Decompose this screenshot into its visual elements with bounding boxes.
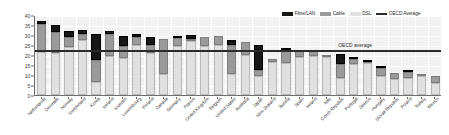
bar-segment-dsl[interactable] <box>132 45 141 95</box>
bar-segment-fibre-lan[interactable] <box>146 37 155 45</box>
bar-group[interactable] <box>173 15 182 95</box>
bar-group[interactable] <box>336 15 345 95</box>
bar-segment-fibre-lan[interactable] <box>363 60 372 62</box>
bar-segment-cable[interactable] <box>64 37 73 47</box>
bar-segment-cable[interactable] <box>322 55 331 57</box>
bar-segment-cable[interactable] <box>200 37 209 47</box>
bar-segment-dsl[interactable] <box>254 76 263 95</box>
bar-segment-fibre-lan[interactable] <box>376 66 385 68</box>
bar-segment-dsl[interactable] <box>91 82 100 95</box>
legend-item[interactable]: DSL <box>350 12 372 17</box>
bar-segment-dsl[interactable] <box>281 63 290 95</box>
bar-segment-fibre-lan[interactable] <box>403 70 412 72</box>
bar-segment-cable[interactable] <box>105 34 114 56</box>
bar-segment-fibre-lan[interactable] <box>349 57 358 59</box>
bar-group[interactable] <box>309 15 318 95</box>
legend-item[interactable]: Fibre/LAN <box>282 12 315 17</box>
bar-segment-dsl[interactable] <box>159 74 168 95</box>
bar-segment-fibre-lan[interactable] <box>105 31 114 34</box>
bar-segment-fibre-lan[interactable] <box>173 36 182 38</box>
bar-group[interactable] <box>241 15 250 95</box>
bar-segment-dsl[interactable] <box>214 45 223 95</box>
bar-segment-dsl[interactable] <box>390 79 399 95</box>
bar-segment-fibre-lan[interactable] <box>37 21 46 24</box>
bar-group[interactable] <box>146 15 155 95</box>
bar-segment-cable[interactable] <box>214 36 223 45</box>
bar-segment-dsl[interactable] <box>186 41 195 95</box>
bar-segment-cable[interactable] <box>403 72 412 78</box>
bar-group[interactable] <box>295 15 304 95</box>
bar-segment-dsl[interactable] <box>376 76 385 95</box>
bar-segment-dsl[interactable] <box>363 63 372 95</box>
bar-segment-dsl[interactable] <box>403 78 412 95</box>
bar-segment-dsl[interactable] <box>105 56 114 95</box>
bar-group[interactable] <box>37 15 46 95</box>
bar-group[interactable] <box>186 15 195 95</box>
bar-segment-cable[interactable] <box>119 46 128 57</box>
bar-segment-fibre-lan[interactable] <box>336 54 345 64</box>
bar-group[interactable] <box>254 15 263 95</box>
bar-segment-cable[interactable] <box>281 50 290 63</box>
bar-segment-dsl[interactable] <box>349 64 358 95</box>
bar-segment-cable[interactable] <box>78 34 87 40</box>
bar-segment-cable[interactable] <box>376 68 385 75</box>
bar-group[interactable] <box>390 15 399 95</box>
bar-segment-cable[interactable] <box>390 73 399 79</box>
bar-group[interactable] <box>51 15 60 95</box>
bar-segment-fibre-lan[interactable] <box>132 34 141 37</box>
bar-segment-dsl[interactable] <box>431 83 440 95</box>
bar-segment-dsl[interactable] <box>64 47 73 95</box>
bar-group[interactable] <box>214 15 223 95</box>
bar-group[interactable] <box>64 15 73 95</box>
bar-group[interactable] <box>132 15 141 95</box>
bar-segment-cable[interactable] <box>241 42 250 55</box>
bar-segment-dsl[interactable] <box>322 57 331 95</box>
bar-segment-fibre-lan[interactable] <box>64 31 73 37</box>
bar-group[interactable] <box>376 15 385 95</box>
bar-segment-dsl[interactable] <box>417 76 426 95</box>
legend-item[interactable]: OECD Average <box>376 12 420 17</box>
bar-group[interactable] <box>417 15 426 95</box>
bar-group[interactable] <box>200 15 209 95</box>
bar-segment-dsl[interactable] <box>268 62 277 95</box>
bar-segment-dsl[interactable] <box>227 74 236 95</box>
bar-group[interactable] <box>281 15 290 95</box>
bar-group[interactable] <box>91 15 100 95</box>
legend-item[interactable]: Cable <box>320 12 345 17</box>
bar-segment-dsl[interactable] <box>146 53 155 95</box>
bar-segment-cable[interactable] <box>254 70 263 76</box>
bar-segment-fibre-lan[interactable] <box>119 36 128 46</box>
bar-group[interactable] <box>322 15 331 95</box>
bar-segment-cable[interactable] <box>417 74 426 76</box>
bar-segment-cable[interactable] <box>431 76 440 82</box>
bar-group[interactable] <box>431 15 440 95</box>
bar-group[interactable] <box>349 15 358 95</box>
bar-segment-fibre-lan[interactable] <box>51 25 60 32</box>
bar-segment-cable[interactable] <box>336 64 345 78</box>
bar-segment-dsl[interactable] <box>295 57 304 95</box>
bar-segment-cable[interactable] <box>173 38 182 46</box>
bar-segment-cable[interactable] <box>186 39 195 41</box>
bar-group[interactable] <box>227 15 236 95</box>
bar-segment-cable[interactable] <box>159 39 168 74</box>
bar-group[interactable] <box>403 15 412 95</box>
bar-segment-cable[interactable] <box>349 59 358 64</box>
bar-segment-dsl[interactable] <box>119 58 128 95</box>
bar-segment-fibre-lan[interactable] <box>227 40 236 45</box>
bar-segment-fibre-lan[interactable] <box>254 45 263 70</box>
bar-group[interactable] <box>78 15 87 95</box>
bar-segment-dsl[interactable] <box>309 56 318 95</box>
bar-group[interactable] <box>159 15 168 95</box>
bar-segment-cable[interactable] <box>132 37 141 46</box>
bar-segment-dsl[interactable] <box>51 53 60 95</box>
bar-group[interactable] <box>119 15 128 95</box>
bar-group[interactable] <box>268 15 277 95</box>
bar-segment-dsl[interactable] <box>200 46 209 95</box>
bar-group[interactable] <box>105 15 114 95</box>
bar-segment-dsl[interactable] <box>78 40 87 95</box>
bar-segment-dsl[interactable] <box>241 55 250 95</box>
bar-segment-fibre-lan[interactable] <box>78 30 87 34</box>
bar-segment-fibre-lan[interactable] <box>91 34 100 60</box>
bar-segment-cable[interactable] <box>268 59 277 62</box>
bar-segment-cable[interactable] <box>227 45 236 75</box>
